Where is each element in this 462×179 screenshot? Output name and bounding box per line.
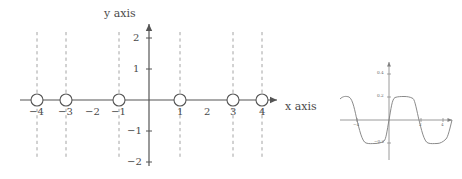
inset-ytick-label-04: 0.4 (377, 71, 384, 75)
inset-plot-canvas (0, 0, 462, 179)
inset-xtick-label-plus4: 4 (441, 123, 444, 127)
figure-root: y axis x axis −4 −3 −2 −1 1 2 3 4 2 1 −1… (0, 0, 462, 179)
inset-y-axis-arrowhead (387, 62, 391, 67)
inset-ytick-label-02: 0.2 (377, 94, 384, 98)
inset-xtick-label-plus2: 2 (419, 123, 422, 127)
inset-ytick-label-minus02: −0.2 (374, 140, 384, 144)
inset-xtick-label-minus4: −4 (353, 123, 359, 127)
